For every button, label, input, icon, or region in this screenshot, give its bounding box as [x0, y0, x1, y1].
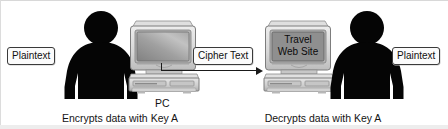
person-left-sender: [64, 11, 138, 101]
person-body-icon: [64, 42, 138, 99]
crypto-flow-diagram: Plaintext: [0, 0, 448, 129]
caption-pc: PC: [155, 97, 170, 110]
caption-decrypts: Decrypts data with Key A: [233, 112, 413, 125]
arrow-right-icon: [256, 67, 263, 75]
desktop-computer-icon: [128, 17, 200, 95]
scan-edge-left: [0, 0, 1, 129]
screen-text-line-2: Web Site: [272, 46, 324, 58]
person-head-icon: [84, 11, 118, 45]
person-head-icon: [350, 11, 384, 45]
plaintext-label-right: Plaintext: [392, 47, 440, 65]
scan-edge-bottom: [0, 125, 448, 129]
cipher-text-label: Cipher Text: [193, 47, 253, 65]
plaintext-label-left: Plaintext: [7, 47, 55, 65]
scan-edge-top: [0, 0, 448, 1]
flow-arrow-line: [161, 70, 257, 71]
screen-text-line-1: Travel: [272, 34, 324, 46]
computer-left: [128, 17, 200, 95]
caption-encrypts: Encrypts data with Key A: [30, 112, 210, 125]
